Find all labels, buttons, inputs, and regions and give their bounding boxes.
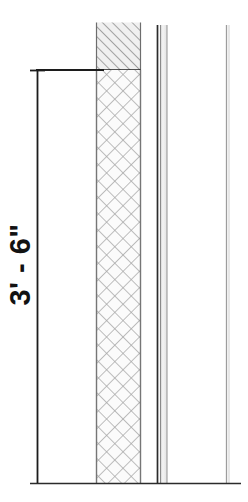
architectural-detail-drawing: 3' - 6"	[0, 0, 248, 502]
dimension-annotation	[30, 70, 104, 483]
cmu-wall-core	[97, 70, 141, 483]
drawing-svg	[0, 0, 248, 502]
far-face-line	[227, 25, 230, 483]
finish-band	[161, 25, 168, 483]
insulation-cap	[97, 23, 141, 71]
